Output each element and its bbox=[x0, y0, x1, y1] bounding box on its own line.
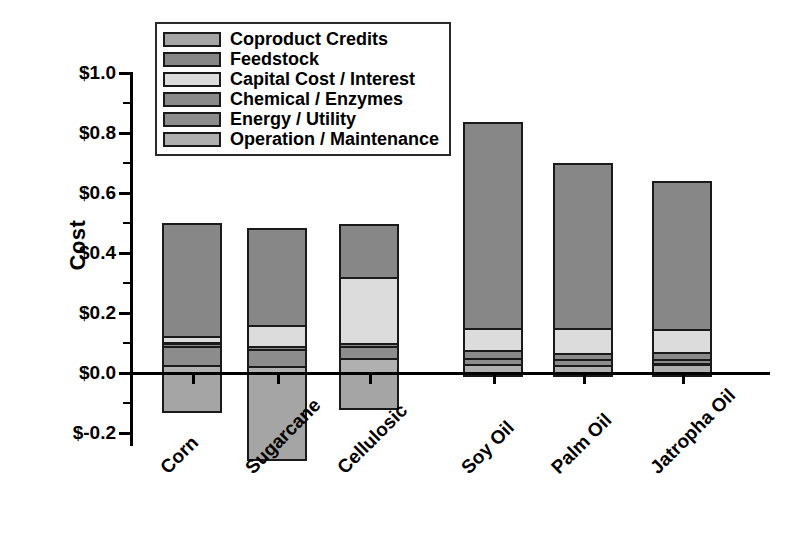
y-tick-minor bbox=[123, 282, 130, 284]
y-tick-label: $0.8 bbox=[30, 122, 116, 144]
y-tick-minor bbox=[123, 222, 130, 224]
y-tick-major bbox=[119, 312, 130, 315]
y-tick-major bbox=[119, 372, 130, 375]
bar-segment bbox=[247, 349, 307, 368]
y-tick-major bbox=[119, 252, 130, 255]
legend-item[interactable]: Coproduct Credits bbox=[163, 29, 439, 49]
y-tick-major bbox=[119, 72, 130, 75]
y-tick-minor bbox=[123, 402, 130, 404]
legend-swatch-icon bbox=[163, 32, 221, 47]
y-tick-minor bbox=[123, 102, 130, 104]
bar-soy-oil[interactable] bbox=[463, 60, 523, 450]
legend-label: Feedstock bbox=[230, 50, 319, 68]
bar-segment bbox=[553, 163, 613, 331]
legend-swatch-icon bbox=[163, 52, 221, 67]
legend-item[interactable]: Energy / Utility bbox=[163, 109, 439, 129]
legend-label: Operation / Maintenance bbox=[230, 130, 439, 148]
bar-segment bbox=[247, 325, 307, 347]
bar-segment bbox=[162, 223, 222, 338]
x-tick bbox=[682, 375, 685, 384]
y-tick-major bbox=[119, 432, 130, 435]
y-tick-label: $0.2 bbox=[30, 302, 116, 324]
legend-label: Coproduct Credits bbox=[230, 30, 388, 48]
legend-item[interactable]: Capital Cost / Interest bbox=[163, 69, 439, 89]
y-tick-minor bbox=[123, 342, 130, 344]
bar-segment bbox=[463, 328, 523, 353]
x-tick bbox=[277, 375, 280, 384]
legend-label: Chemical / Enzymes bbox=[230, 90, 403, 108]
bar-segment bbox=[553, 328, 613, 355]
bar-segment bbox=[339, 346, 399, 360]
bar-jatropha-oil[interactable] bbox=[652, 60, 712, 450]
bar-segment bbox=[652, 181, 712, 331]
legend-swatch-icon bbox=[163, 132, 221, 147]
legend-label: Energy / Utility bbox=[230, 110, 356, 128]
bar-segment bbox=[162, 346, 222, 367]
legend-label: Capital Cost / Interest bbox=[230, 70, 415, 88]
y-tick-label: $0.0 bbox=[30, 362, 116, 384]
legend-swatch-icon bbox=[163, 112, 221, 127]
legend-item[interactable]: Feedstock bbox=[163, 49, 439, 69]
bar-segment bbox=[339, 224, 399, 279]
y-tick-major bbox=[119, 192, 130, 195]
zero-baseline bbox=[130, 372, 770, 375]
x-tick bbox=[369, 375, 372, 384]
y-tick-minor bbox=[123, 162, 130, 164]
y-tick-label: $0.4 bbox=[30, 242, 116, 264]
bar-segment bbox=[652, 329, 712, 354]
chart-figure: Cost $1.0$0.8$0.6$0.4$0.2$0.0$-0.2 CornS… bbox=[0, 0, 792, 549]
legend-item[interactable]: Operation / Maintenance bbox=[163, 129, 439, 149]
legend-swatch-icon bbox=[163, 72, 221, 87]
x-tick bbox=[192, 375, 195, 384]
y-tick-major bbox=[119, 132, 130, 135]
y-axis-tick-labels: $1.0$0.8$0.6$0.4$0.2$0.0$-0.2 bbox=[26, 0, 116, 549]
legend-item[interactable]: Chemical / Enzymes bbox=[163, 89, 439, 109]
legend: Coproduct CreditsFeedstockCapital Cost /… bbox=[155, 22, 451, 156]
bar-segment bbox=[247, 228, 307, 328]
legend-swatch-icon bbox=[163, 92, 221, 107]
y-tick-label: $0.6 bbox=[30, 182, 116, 204]
y-tick-label: $1.0 bbox=[30, 62, 116, 84]
x-tick bbox=[583, 375, 586, 384]
x-tick bbox=[493, 375, 496, 384]
y-tick-label: $-0.2 bbox=[30, 422, 116, 444]
bar-palm-oil[interactable] bbox=[553, 60, 613, 450]
bar-segment bbox=[339, 277, 399, 345]
bar-segment bbox=[463, 122, 523, 330]
